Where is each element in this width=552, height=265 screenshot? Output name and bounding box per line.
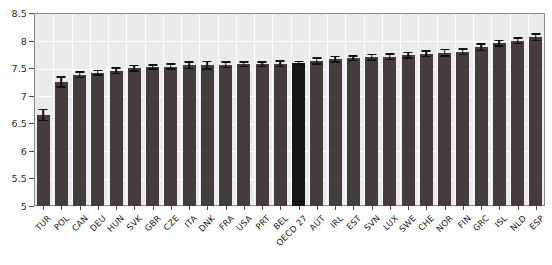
bar-group[interactable] (110, 13, 123, 206)
error-bar-cap-upper (112, 67, 121, 69)
bar-group[interactable] (402, 13, 415, 206)
bar[interactable] (420, 54, 433, 206)
bar[interactable] (493, 43, 506, 206)
x-axis-tick-label: AUT (307, 213, 327, 233)
bar-chart: 55.566.577.588.5 TURPOLCANDEUHUNSVKGBRCZ… (0, 0, 552, 265)
x-axis-tick-mark (445, 206, 446, 210)
bar[interactable] (201, 65, 214, 206)
bar-group[interactable] (91, 13, 104, 206)
x-axis-tick-label: NLD (508, 213, 528, 233)
x-axis-tick-mark (61, 206, 62, 210)
bar-group[interactable] (456, 13, 469, 206)
bar-group[interactable] (292, 13, 305, 206)
bar-group[interactable] (347, 13, 360, 206)
bar[interactable] (110, 71, 123, 206)
bar-group[interactable] (511, 13, 524, 206)
bar[interactable] (91, 73, 104, 206)
error-bar-cap-lower (531, 40, 540, 42)
bar[interactable] (55, 82, 68, 206)
bar[interactable] (365, 57, 378, 206)
y-axis-tick-label: 7 (21, 90, 27, 101)
y-axis-tick-label: 6 (21, 145, 27, 156)
x-axis-tick-mark (481, 206, 482, 210)
x-axis-tick-mark (226, 206, 227, 210)
bar-group[interactable] (183, 13, 196, 206)
bar-group[interactable] (237, 13, 250, 206)
bar[interactable] (256, 64, 269, 206)
bar-group[interactable] (310, 13, 323, 206)
bar[interactable] (529, 37, 542, 206)
error-bar-cap-lower (130, 70, 139, 72)
bar-group[interactable] (475, 13, 488, 206)
bar[interactable] (475, 47, 488, 206)
bar[interactable] (310, 61, 323, 206)
bar[interactable] (37, 115, 50, 206)
bar-group[interactable] (420, 13, 433, 206)
x-axis-tick-mark (499, 206, 500, 210)
bar[interactable] (383, 57, 396, 206)
error-bar-cap-upper (331, 56, 340, 58)
bar-group[interactable] (55, 13, 68, 206)
x-axis-tick-mark (518, 206, 519, 210)
bar[interactable] (164, 67, 177, 207)
error-bar-cap-lower (477, 50, 486, 52)
x-axis-tick-mark (153, 206, 154, 210)
x-axis-tick-label: ISL (493, 213, 509, 229)
error-bar-cap-upper (349, 55, 358, 57)
bar[interactable] (511, 41, 524, 206)
bar[interactable] (456, 52, 469, 206)
error-bar-cap-upper (458, 48, 467, 50)
bar[interactable] (347, 58, 360, 206)
bar[interactable] (329, 59, 342, 206)
error-bar-cap-upper (477, 43, 486, 45)
x-axis-tick-mark (353, 206, 354, 210)
x-axis-tick-label: TUR (33, 213, 53, 233)
x-axis-tick-mark (299, 206, 300, 210)
error-bar-cap-lower (294, 63, 303, 65)
bar-group[interactable] (274, 13, 287, 206)
bar[interactable] (73, 75, 86, 206)
x-axis-tick-label: CAN (69, 213, 89, 233)
bar[interactable] (128, 68, 141, 206)
bar-group[interactable] (383, 13, 396, 206)
x-axis-tick-label: SVN (362, 213, 382, 233)
bar-group[interactable] (219, 13, 232, 206)
x-axis-tick-label: FRA (217, 213, 236, 232)
bar-group[interactable] (201, 13, 214, 206)
error-bar-cap-lower (458, 54, 467, 56)
error-bar-cap-lower (258, 66, 267, 68)
bar[interactable] (292, 63, 305, 206)
bar-group[interactable] (256, 13, 269, 206)
error-bar-cap-upper (422, 50, 431, 52)
x-axis-tick-mark (189, 206, 190, 210)
error-bar-cap-upper (404, 52, 413, 54)
error-bar-cap-upper (57, 76, 66, 78)
x-axis-tick-label: DEU (88, 213, 108, 233)
bar[interactable] (438, 53, 451, 206)
bar-group[interactable] (146, 13, 159, 206)
error-bar-cap-upper (166, 63, 175, 65)
bar-group[interactable] (73, 13, 86, 206)
bar-group[interactable] (128, 13, 141, 206)
bar-group[interactable] (329, 13, 342, 206)
error-bar-cap-lower (221, 67, 230, 69)
bar[interactable] (237, 64, 250, 206)
x-axis-tick-label: SVK (125, 213, 144, 232)
bar-group[interactable] (438, 13, 451, 206)
error-bar-cap-upper (239, 61, 248, 63)
bar-group[interactable] (164, 13, 177, 206)
bar[interactable] (146, 67, 159, 206)
error-bar-cap-upper (221, 61, 230, 63)
bar-group[interactable] (529, 13, 542, 206)
x-axis-tick-label: SWE (397, 213, 418, 234)
bar[interactable] (274, 64, 287, 206)
bar[interactable] (402, 55, 415, 206)
x-axis-tick-mark (317, 206, 318, 210)
bar-group[interactable] (493, 13, 506, 206)
bar[interactable] (183, 65, 196, 206)
x-axis-tick-mark (463, 206, 464, 210)
bar[interactable] (219, 65, 232, 206)
bar-group[interactable] (365, 13, 378, 206)
bar-group[interactable] (37, 13, 50, 206)
x-axis-tick-label: GRC (471, 213, 491, 233)
